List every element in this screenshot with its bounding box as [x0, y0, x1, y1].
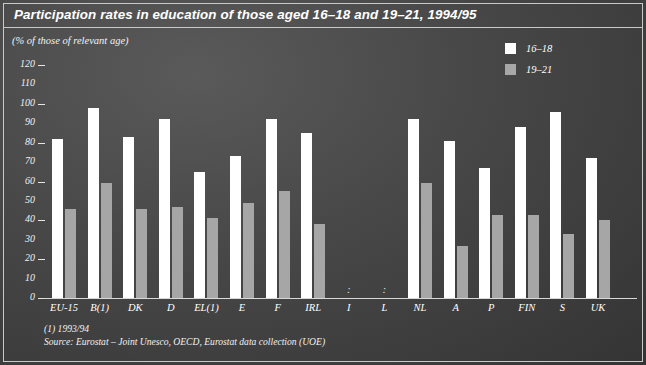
bar-19-21 [314, 224, 325, 298]
plot-area: 0102030405060708090100110120 EU-15B(1)DK… [0, 0, 646, 365]
missing-data-marker: : [366, 283, 402, 295]
bar-19-21 [457, 246, 468, 298]
y-tick-mark [38, 220, 45, 221]
bar-19-21 [101, 183, 112, 298]
bar-16-18 [479, 168, 490, 298]
bar-19-21 [172, 207, 183, 298]
y-tick-label: 0 [5, 291, 35, 302]
y-tick-label: 30 [5, 233, 35, 244]
y-tick-mark [38, 65, 45, 66]
bar-19-21 [136, 209, 147, 298]
bar-19-21 [492, 215, 503, 298]
y-tick-label: 60 [5, 175, 35, 186]
y-tick-label: 50 [5, 194, 35, 205]
bar-19-21 [563, 234, 574, 298]
bar-19-21 [528, 215, 539, 298]
y-tick-label: 110 [5, 77, 35, 88]
bar-19-21 [599, 220, 610, 298]
missing-data-marker: : [331, 283, 367, 295]
bar-16-18 [194, 172, 205, 298]
y-tick-mark [38, 182, 45, 183]
y-tick-label: 40 [5, 213, 35, 224]
x-axis-baseline [43, 298, 637, 299]
y-tick-label: 90 [5, 116, 35, 127]
bar-16-18 [444, 141, 455, 298]
x-tick-label: UK [575, 302, 621, 313]
y-tick-label: 20 [5, 252, 35, 263]
bar-16-18 [301, 133, 312, 298]
bar-16-18 [408, 119, 419, 298]
y-tick-label: 70 [5, 155, 35, 166]
bar-16-18 [52, 139, 63, 298]
bar-16-18 [230, 156, 241, 298]
y-tick-mark [38, 259, 45, 260]
bar-19-21 [243, 203, 254, 298]
y-tick-label: 100 [5, 97, 35, 108]
bar-19-21 [421, 183, 432, 298]
bar-16-18 [88, 108, 99, 298]
y-tick-label: 80 [5, 136, 35, 147]
bar-19-21 [279, 191, 290, 298]
bar-19-21 [65, 209, 76, 298]
bar-16-18 [515, 127, 526, 298]
bar-16-18 [586, 158, 597, 298]
bar-19-21 [207, 218, 218, 298]
footnote-1: (1) 1993/94 [44, 322, 325, 335]
y-tick-label: 10 [5, 272, 35, 283]
bar-16-18 [550, 112, 561, 298]
footnotes: (1) 1993/94 Source: Eurostat – Joint Une… [44, 322, 325, 348]
y-tick-label: 120 [5, 58, 35, 69]
chart-figure: Participation rates in education of thos… [0, 0, 646, 365]
bar-16-18 [123, 137, 134, 298]
footnote-source: Source: Eurostat – Joint Unesco, OECD, E… [44, 335, 325, 348]
bar-16-18 [159, 119, 170, 298]
y-tick-mark [38, 143, 45, 144]
y-tick-mark [38, 104, 45, 105]
bar-16-18 [266, 119, 277, 298]
